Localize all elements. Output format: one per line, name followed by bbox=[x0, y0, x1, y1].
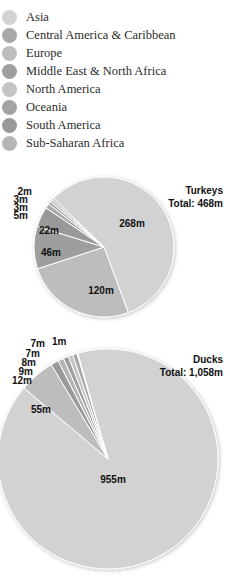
turkeys-label-south-america: 22m bbox=[39, 225, 59, 236]
ducks-pie bbox=[0, 349, 218, 569]
ducks-label-asia: 955m bbox=[100, 474, 126, 485]
ducks-total: Total: 1,058m bbox=[160, 367, 223, 378]
ducks-label-6: 7m bbox=[31, 338, 46, 349]
turkeys-label-europe: 120m bbox=[88, 285, 114, 296]
ducks-title: Ducks bbox=[193, 354, 223, 365]
pie-charts: 268m 120m 46m 22m 5m 3m 3m 2m Turkeys To… bbox=[0, 0, 230, 576]
ducks-label-7: 1m bbox=[52, 336, 67, 347]
turkeys-label-asia: 268m bbox=[119, 218, 145, 229]
turkeys-label-7: 2m bbox=[18, 186, 33, 197]
turkeys-label-mena: 46m bbox=[41, 247, 61, 258]
ducks-label-europe: 55m bbox=[31, 404, 51, 415]
ducks-label-5: 7m bbox=[26, 348, 41, 359]
turkeys-title: Turkeys bbox=[185, 185, 223, 196]
turkeys-total: Total: 468m bbox=[168, 198, 223, 209]
